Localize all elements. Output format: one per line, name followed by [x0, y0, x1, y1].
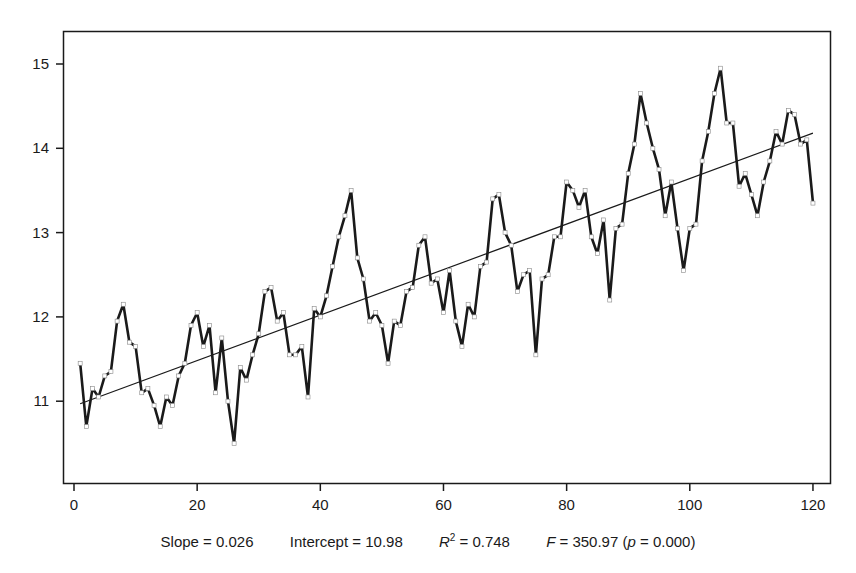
data-point-marker: [589, 235, 593, 239]
data-point-marker: [232, 441, 236, 445]
x-tick-label: 0: [70, 496, 78, 513]
data-series: [78, 66, 815, 445]
data-point-marker: [158, 424, 162, 428]
data-point-marker: [626, 172, 630, 176]
data-point-marker: [386, 361, 390, 365]
y-tick-label: 13: [32, 224, 49, 241]
data-point-marker: [411, 285, 415, 289]
data-point-marker: [398, 323, 402, 327]
data-point-marker: [435, 277, 439, 281]
data-point-marker: [669, 180, 673, 184]
data-point-marker: [491, 197, 495, 201]
data-point-marker: [238, 365, 242, 369]
data-point-marker: [177, 374, 181, 378]
data-point-marker: [195, 311, 199, 315]
data-point-marker: [749, 193, 753, 197]
f-value: = 350.97 (: [555, 533, 627, 550]
data-point-marker: [497, 193, 501, 197]
data-point-marker: [663, 214, 667, 218]
p-symbol: p: [627, 533, 635, 550]
data-point-marker: [522, 273, 526, 277]
data-point-marker: [466, 302, 470, 306]
data-point-marker: [608, 298, 612, 302]
data-point-marker: [183, 361, 187, 365]
x-tick-label: 100: [677, 496, 702, 513]
data-point-marker: [355, 256, 359, 260]
data-point-marker: [485, 260, 489, 264]
line-chart: 1112131415 020406080100120: [0, 0, 856, 573]
data-point-marker: [251, 353, 255, 357]
data-point-marker: [719, 66, 723, 70]
data-point-marker: [405, 290, 409, 294]
data-point-marker: [97, 395, 101, 399]
data-point-marker: [478, 264, 482, 268]
data-point-marker: [380, 323, 384, 327]
data-point-marker: [571, 188, 575, 192]
data-point-marker: [460, 344, 464, 348]
y-tick-label: 15: [32, 55, 49, 72]
data-point-marker: [417, 243, 421, 247]
data-point-marker: [306, 395, 310, 399]
x-tick-label: 40: [312, 496, 329, 513]
x-axis: 020406080100120: [70, 484, 826, 514]
data-point-marker: [318, 315, 322, 319]
data-point-marker: [312, 306, 316, 310]
data-point-marker: [90, 387, 94, 391]
data-point-marker: [281, 311, 285, 315]
data-point-marker: [300, 344, 304, 348]
data-point-marker: [164, 395, 168, 399]
data-point-marker: [799, 142, 803, 146]
data-point-marker: [768, 159, 772, 163]
data-point-marker: [423, 235, 427, 239]
data-point-marker: [214, 391, 218, 395]
data-point-marker: [472, 315, 476, 319]
slope-stat: Slope = 0.026: [161, 533, 254, 550]
data-point-marker: [374, 311, 378, 315]
data-point-marker: [189, 323, 193, 327]
data-point-marker: [694, 222, 698, 226]
data-point-marker: [263, 290, 267, 294]
data-point-marker: [583, 188, 587, 192]
data-point-marker: [558, 235, 562, 239]
data-point-marker: [762, 180, 766, 184]
data-point-marker: [515, 290, 519, 294]
data-point-marker: [201, 344, 205, 348]
data-point-marker: [657, 167, 661, 171]
data-point-marker: [324, 294, 328, 298]
data-point-marker: [454, 319, 458, 323]
data-point-marker: [257, 332, 261, 336]
data-point-marker: [706, 129, 710, 133]
data-point-marker: [805, 138, 809, 142]
data-point-marker: [392, 319, 396, 323]
data-point-marker: [103, 374, 107, 378]
data-point-marker: [84, 424, 88, 428]
data-point-marker: [269, 285, 273, 289]
data-point-marker: [620, 222, 624, 226]
data-point-marker: [275, 319, 279, 323]
x-tick-label: 20: [189, 496, 206, 513]
data-point-marker: [226, 399, 230, 403]
data-point-marker: [429, 281, 433, 285]
p-value: = 0.000): [636, 533, 696, 550]
y-tick-label: 12: [32, 308, 49, 325]
data-point-marker: [171, 403, 175, 407]
y-axis: 1112131415: [32, 55, 63, 409]
y-tick-label: 11: [33, 392, 49, 409]
data-point-marker: [546, 273, 550, 277]
data-point-marker: [712, 92, 716, 96]
intercept-stat: Intercept = 10.98: [290, 533, 403, 550]
r-squared-value: = 0.748: [455, 533, 510, 550]
data-point-marker: [602, 218, 606, 222]
data-point-marker: [632, 142, 636, 146]
data-point-marker: [294, 353, 298, 357]
data-point-marker: [207, 323, 211, 327]
data-point-marker: [121, 302, 125, 306]
data-point-marker: [368, 319, 372, 323]
data-point-marker: [337, 235, 341, 239]
x-tick-label: 120: [800, 496, 825, 513]
data-point-marker: [528, 269, 532, 273]
r-squared-stat: R2 = 0.748: [439, 532, 510, 550]
data-point-marker: [331, 264, 335, 268]
regression-line: [80, 133, 813, 404]
data-point-marker: [448, 269, 452, 273]
